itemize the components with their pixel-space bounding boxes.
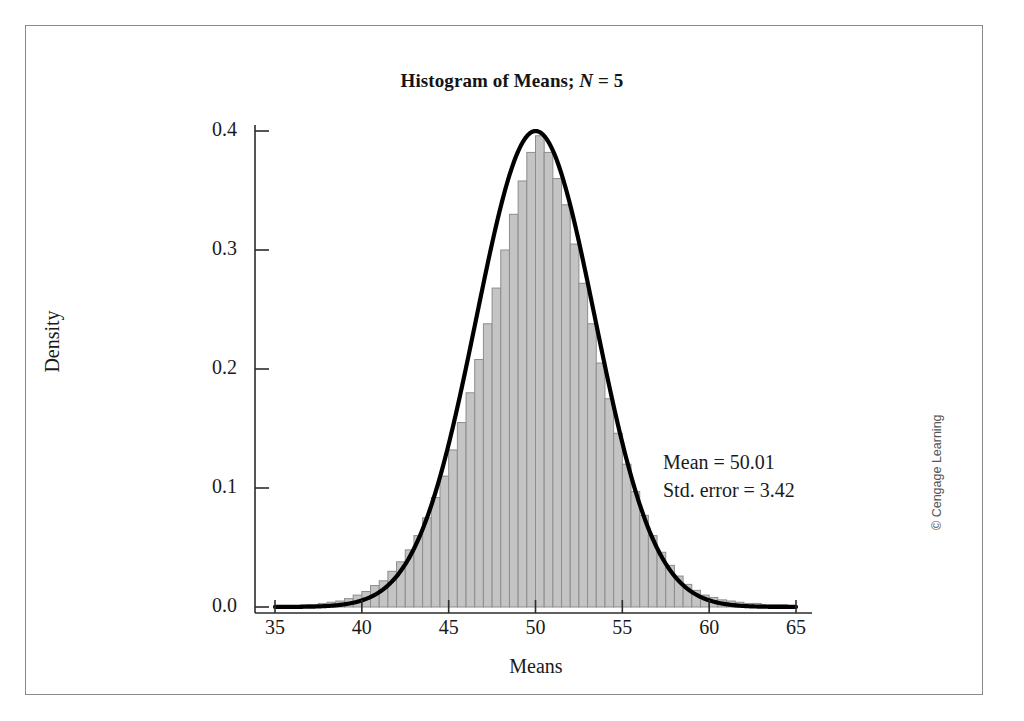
y-axis-tick-label: 0.0 [175, 594, 237, 617]
histogram-bar [509, 214, 518, 607]
histogram-bar [518, 181, 527, 607]
histogram-bar [596, 363, 605, 607]
histogram-bar [614, 433, 623, 607]
x-axis-tick-label: 40 [332, 616, 392, 639]
y-axis-tick-label: 0.3 [175, 237, 237, 260]
copyright-label: © Cengage Learning [930, 330, 944, 530]
x-axis-tick-label: 65 [766, 616, 826, 639]
x-axis-tick-label: 50 [506, 616, 566, 639]
histogram-bar [536, 136, 545, 607]
histogram-bar [588, 324, 597, 607]
y-axis-tick-label: 0.2 [175, 356, 237, 379]
histogram-bar [570, 244, 579, 607]
histogram-bar [466, 393, 475, 607]
y-axis-tick-label: 0.4 [175, 118, 237, 141]
histogram-bar [449, 450, 458, 607]
histogram-bars [301, 136, 787, 607]
annotation-line: Std. error = 3.42 [663, 476, 795, 504]
histogram-bar [631, 492, 640, 607]
histogram-bar [483, 324, 492, 607]
histogram-bar [579, 283, 588, 607]
histogram-bar [492, 288, 501, 607]
histogram-chart [0, 0, 1024, 721]
y-axis-tick-label: 0.1 [175, 475, 237, 498]
histogram-bar [457, 423, 466, 607]
annotation-line: Mean = 50.01 [663, 448, 795, 476]
chart-title-symbol: N [579, 70, 593, 91]
histogram-bar [622, 464, 631, 607]
y-axis-ticks [255, 131, 269, 607]
x-axis-tick-label: 35 [245, 616, 305, 639]
histogram-bar [553, 179, 562, 607]
statistics-annotation: Mean = 50.01Std. error = 3.42 [663, 448, 795, 505]
histogram-bar [440, 476, 449, 607]
histogram-bar [475, 359, 484, 607]
x-axis-tick-label: 55 [592, 616, 652, 639]
chart-title: Histogram of Means; N = 5 [0, 70, 1024, 92]
x-axis-tick-label: 60 [679, 616, 739, 639]
histogram-bar [527, 152, 536, 607]
histogram-bar [544, 152, 553, 607]
histogram-bar [605, 399, 614, 607]
histogram-bar [431, 498, 440, 607]
histogram-bar [562, 205, 571, 607]
y-axis-title: Density [41, 242, 64, 442]
chart-title-prefix: Histogram of Means; [401, 70, 580, 91]
x-axis-title: Means [275, 655, 797, 678]
figure-root: Histogram of Means; N = 5 Density Means … [0, 0, 1024, 721]
x-axis-tick-label: 45 [419, 616, 479, 639]
histogram-bar [501, 250, 510, 607]
chart-title-suffix: = 5 [593, 70, 623, 91]
